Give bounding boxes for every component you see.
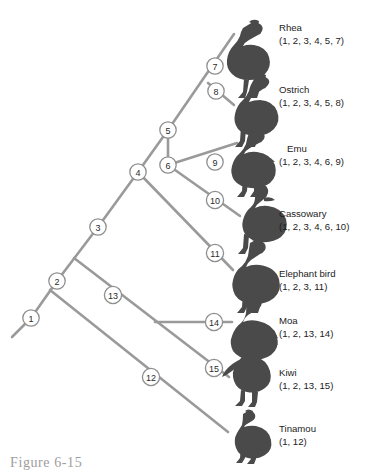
figure-caption: Figure 6-15: [10, 455, 82, 471]
taxon-name-cassowary: Cassowary: [279, 208, 327, 219]
node-marker-2[interactable]: 2: [49, 273, 65, 289]
node-marker-15[interactable]: 15: [205, 359, 222, 376]
node-label-14: 14: [209, 318, 219, 328]
branch-9-to-emu: [168, 143, 237, 165]
node-marker-11[interactable]: 11: [206, 244, 223, 261]
taxon-traits-cassowary: (1, 2, 3, 4, 6, 10): [279, 221, 349, 232]
taxon-traits-kiwi: (1, 2, 13, 15): [279, 380, 333, 391]
taxon-name-rhea: Rhea: [279, 22, 303, 33]
taxon-traits-elephant-bird: (1, 2, 3, 11): [279, 281, 327, 292]
taxon-name-moa: Moa: [279, 315, 298, 326]
taxon-label-cassowary: Cassowary (1, 2, 3, 4, 6, 10): [279, 208, 349, 232]
node-marker-5[interactable]: 5: [160, 122, 176, 138]
taxon-traits-emu: (1, 2, 3, 4, 6, 9): [279, 156, 344, 167]
branch-12-to-tinamou: [50, 290, 228, 432]
taxon-label-moa: Moa (1, 2, 13, 14): [279, 315, 333, 339]
taxon-name-ostrich: Ostrich: [279, 84, 309, 95]
taxon-label-kiwi: Kiwi (1, 2, 13, 15): [279, 367, 333, 391]
taxon-name-elephant-bird: Elephant bird: [279, 268, 336, 279]
node-label-5: 5: [165, 126, 170, 136]
taxon-label-ostrich: Ostrich (1, 2, 3, 4, 5, 8): [279, 84, 344, 108]
phylogenetic-tree-figure: 1 2 3 4 5 6 7: [0, 0, 371, 475]
taxon-name-kiwi: Kiwi: [279, 367, 297, 378]
node-marker-14[interactable]: 14: [205, 313, 222, 330]
node-marker-9[interactable]: 9: [207, 154, 223, 170]
node-label-15: 15: [209, 364, 219, 374]
node-label-1: 1: [28, 314, 33, 324]
tinamou-silhouette: [235, 410, 272, 465]
node-marker-13[interactable]: 13: [104, 286, 121, 303]
kiwi-silhouette: [222, 355, 271, 407]
node-marker-4[interactable]: 4: [130, 164, 146, 180]
node-label-13: 13: [108, 291, 118, 301]
taxon-labels: Rhea (1, 2, 3, 4, 5, 7) Ostrich (1, 2, 3…: [279, 22, 349, 447]
taxon-name-emu: Emu: [287, 143, 307, 154]
node-label-8: 8: [213, 87, 218, 97]
node-marker-7[interactable]: 7: [207, 58, 223, 74]
node-marker-10[interactable]: 10: [206, 191, 223, 208]
taxon-name-tinamou: Tinamou: [279, 423, 316, 434]
taxon-label-elephant-bird: Elephant bird (1, 2, 3, 11): [279, 268, 336, 292]
node-label-3: 3: [95, 223, 100, 233]
taxon-traits-tinamou: (1, 12): [279, 436, 307, 447]
taxon-label-emu: Emu (1, 2, 3, 4, 6, 9): [279, 143, 344, 167]
node-label-11: 11: [210, 249, 219, 259]
branch-5-to-7-rhea: [168, 34, 234, 130]
tree-nodes: 1 2 3 4 5 6 7: [23, 58, 224, 386]
node-marker-3[interactable]: 3: [90, 219, 106, 235]
node-label-4: 4: [135, 168, 140, 178]
node-label-12: 12: [146, 373, 156, 383]
taxon-label-rhea: Rhea (1, 2, 3, 4, 5, 7): [279, 22, 344, 46]
node-label-6: 6: [165, 161, 170, 171]
taxon-label-tinamou: Tinamou (1, 12): [279, 423, 316, 447]
node-marker-12[interactable]: 12: [142, 368, 159, 385]
node-label-10: 10: [210, 196, 220, 206]
emu-silhouette: [231, 128, 275, 197]
bird-silhouettes: [222, 20, 287, 464]
node-label-2: 2: [54, 277, 59, 287]
node-label-9: 9: [212, 158, 217, 168]
taxon-traits-rhea: (1, 2, 3, 4, 5, 7): [279, 35, 344, 46]
branch-3-to-4: [98, 172, 138, 227]
node-marker-6[interactable]: 6: [160, 157, 176, 173]
node-label-7: 7: [212, 62, 217, 72]
taxon-traits-moa: (1, 2, 13, 14): [279, 328, 333, 339]
tree-branches: [12, 34, 240, 432]
taxon-traits-ostrich: (1, 2, 3, 4, 5, 8): [279, 97, 344, 108]
branch-10-to-cassowary: [168, 165, 240, 216]
branch-13-stem: [74, 258, 229, 377]
node-marker-8[interactable]: 8: [208, 83, 224, 99]
tree-diagram: 1 2 3 4 5 6 7: [0, 0, 371, 475]
node-marker-1[interactable]: 1: [23, 310, 39, 326]
